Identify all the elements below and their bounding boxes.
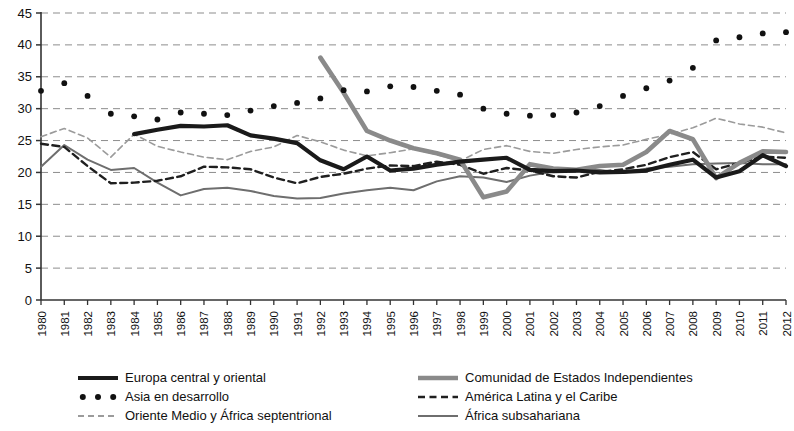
x-axis-tick-label: 1986 [175, 311, 187, 337]
x-axis-tick-label: 1996 [408, 311, 420, 337]
legend-label-oriente: Oriente Medio y África septentrional [125, 408, 332, 423]
y-axis-tick-label: 25 [18, 133, 32, 148]
y-axis-ticks: 051015202530354045 [18, 6, 41, 308]
legend-label-europa: Europa central y oriental [125, 370, 266, 385]
x-axis-tick-label: 1985 [152, 311, 164, 337]
y-axis-tick-label: 30 [18, 101, 32, 116]
x-axis-tick-label: 1989 [245, 311, 257, 337]
x-axis-tick-label: 1998 [455, 311, 467, 337]
legend-label-latina: América Latina y el Caribe [465, 389, 617, 404]
x-axis-tick-label: 1999 [478, 311, 490, 337]
legend-label-africa: África subsahariana [465, 408, 581, 423]
x-axis-tick-label: 1981 [59, 311, 71, 337]
line-chart: 051015202530354045 198019811982198319841… [0, 0, 794, 431]
y-axis-tick-label: 45 [18, 6, 32, 21]
x-axis-tick-label: 2002 [548, 311, 560, 337]
x-axis-tick-label: 2006 [641, 311, 653, 337]
x-axis-tick-label: 1982 [82, 311, 94, 337]
x-axis-ticks: 1980198119821983198419851986198719881989… [36, 300, 793, 337]
x-axis-tick-label: 1994 [361, 310, 373, 336]
legend-item-africa[interactable]: África subsahariana [418, 408, 581, 423]
x-axis-tick-label: 2007 [664, 311, 676, 337]
series-europa [134, 125, 786, 177]
legend-label-asia: Asia en desarrollo [125, 389, 229, 404]
legend-item-latina[interactable]: América Latina y el Caribe [418, 389, 617, 404]
x-axis-tick-label: 2005 [618, 311, 630, 337]
x-axis-tick-label: 2004 [594, 310, 606, 336]
legend-item-europa[interactable]: Europa central y oriental [78, 370, 266, 385]
x-axis-tick-label: 1993 [338, 311, 350, 337]
series-oriente [41, 118, 786, 161]
x-axis-tick-label: 2009 [711, 311, 723, 337]
series-africa [41, 145, 786, 199]
data-series [38, 29, 789, 198]
chart-legend: Europa central y orientalAsia en desarro… [78, 370, 693, 423]
x-axis-tick-label: 2010 [734, 311, 746, 337]
x-axis-tick-label: 2003 [571, 311, 583, 337]
y-axis-tick-label: 20 [18, 165, 32, 180]
x-axis-tick-label: 2011 [757, 311, 769, 336]
y-axis-tick-label: 15 [18, 197, 32, 212]
x-axis-tick-label: 1991 [292, 311, 304, 337]
x-axis-tick-label: 1990 [268, 311, 280, 337]
x-axis-tick-label: 1995 [385, 311, 397, 337]
x-axis-tick-label: 1997 [431, 311, 443, 337]
x-axis-tick-label: 2000 [501, 311, 513, 337]
legend-item-asia[interactable]: Asia en desarrollo [80, 389, 229, 404]
y-axis-tick-label: 40 [18, 37, 32, 52]
x-axis-tick-label: 2008 [687, 311, 699, 337]
x-axis-tick-label: 2001 [524, 311, 536, 337]
chart-container: 051015202530354045 198019811982198319841… [0, 0, 794, 431]
y-axis-tick-label: 10 [18, 229, 32, 244]
legend-item-cei[interactable]: Comunidad de Estados Independientes [418, 370, 693, 385]
legend-item-oriente[interactable]: Oriente Medio y África septentrional [78, 408, 332, 423]
x-axis-tick-label: 1988 [222, 311, 234, 337]
x-axis-tick-label: 1987 [198, 311, 210, 337]
x-axis-tick-label: 1980 [36, 311, 48, 337]
gridlines [41, 13, 786, 268]
x-axis-tick-label: 2012 [781, 311, 793, 337]
legend-label-cei: Comunidad de Estados Independientes [465, 370, 693, 385]
x-axis-tick-label: 1983 [105, 311, 117, 337]
y-axis-tick-label: 35 [18, 69, 32, 84]
x-axis-tick-label: 1992 [315, 311, 327, 337]
y-axis-tick-label: 5 [25, 261, 32, 276]
x-axis-tick-label: 1984 [129, 310, 141, 336]
y-axis-tick-label: 0 [25, 293, 32, 308]
